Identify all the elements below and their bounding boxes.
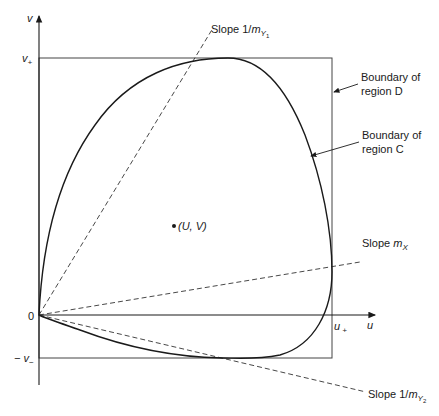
point-uv-label: (U, V) [178,220,207,232]
slope-y1-line [39,28,213,315]
slope-y2-label: Slope 1/mY2 [368,388,427,404]
v-axis-label: v [27,12,34,24]
boundary-d-pointer [334,84,358,92]
region-d-boundary [39,58,332,358]
boundary-c-label: Boundary of region C [362,129,424,155]
u-axis-label: u [367,319,373,331]
slope-x-label: Slope mX [362,237,408,252]
u-plus-label: u+ [334,320,347,335]
slope-y1-label: Slope 1/mY1 [211,23,270,39]
boundary-d-label: Boundary of region D [361,71,423,97]
point-uv-dot [172,224,176,228]
v-plus-label: v+ [22,52,33,67]
v-minus-label: − v− [14,352,34,367]
region-c-boundary [39,58,332,358]
diagram-canvas: (U, V) v u 0 v+ − v− u+ Slope 1/mY1 Slop… [0,0,439,416]
slope-x-line [39,262,360,315]
origin-label: 0 [28,310,34,322]
boundary-c-pointer [311,142,359,156]
